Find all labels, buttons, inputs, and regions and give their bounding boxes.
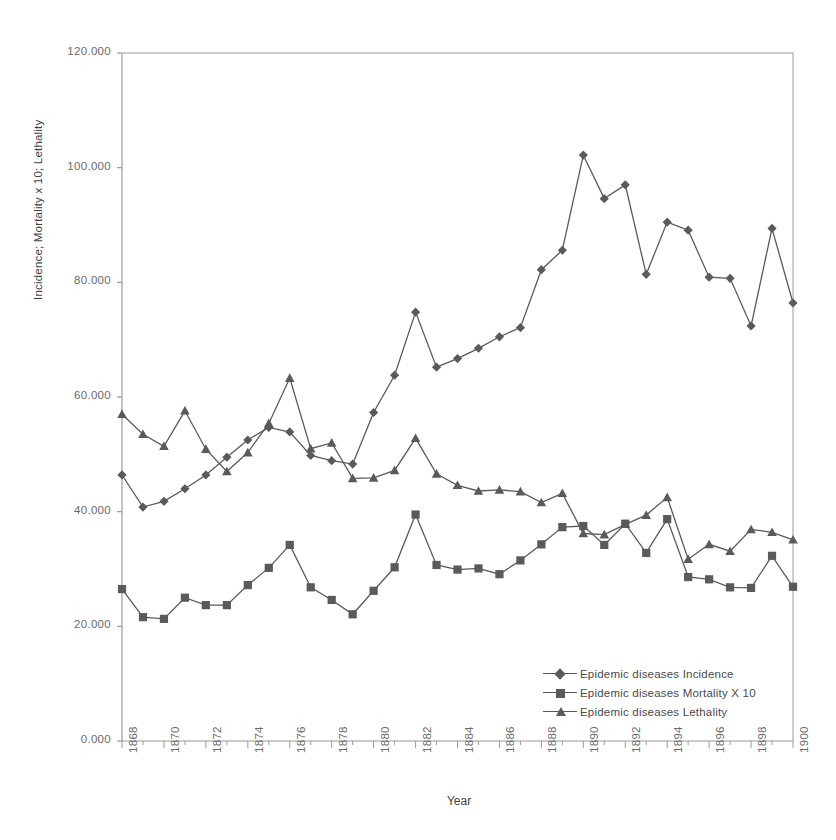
data-point-marker (432, 469, 442, 478)
data-point-marker (370, 587, 378, 595)
data-point-marker (600, 194, 609, 203)
data-point-marker (223, 601, 231, 609)
data-point-marker (432, 561, 440, 569)
y-axis-tick-label: 80.000 (41, 274, 111, 286)
data-point-marker (537, 540, 545, 548)
data-point-marker (285, 373, 295, 382)
x-axis-tick-label: 1892 (630, 726, 642, 753)
data-point-marker (453, 480, 463, 489)
data-point-marker (180, 406, 190, 415)
x-axis-tick-label: 1884 (463, 726, 475, 753)
data-point-marker (579, 150, 588, 159)
data-point-marker (558, 489, 568, 498)
data-point-marker (662, 493, 672, 502)
data-point-marker (705, 575, 713, 583)
x-axis-tick-label: 1888 (546, 726, 558, 753)
data-point-marker (642, 270, 651, 279)
data-point-marker (138, 502, 147, 511)
data-point-marker (663, 515, 671, 523)
data-point-marker (558, 523, 566, 531)
data-point-marker (139, 613, 147, 621)
chart-legend: Epidemic diseases Incidence Epidemic dis… (543, 664, 756, 721)
data-point-marker (307, 583, 315, 591)
legend-label: Epidemic diseases Lethality (580, 706, 727, 718)
data-point-marker (642, 549, 650, 557)
data-point-marker (244, 581, 252, 589)
data-point-marker (117, 470, 126, 479)
data-point-marker (390, 563, 398, 571)
data-point-marker (265, 564, 273, 572)
data-point-marker (160, 615, 168, 623)
x-axis-tick-label: 1874 (253, 726, 265, 753)
data-point-marker (495, 485, 505, 494)
data-point-marker (725, 274, 734, 283)
data-point-marker (411, 510, 419, 518)
data-point-marker (432, 363, 441, 372)
data-point-marker (348, 459, 357, 468)
data-point-marker (328, 596, 336, 604)
data-point-marker (159, 497, 168, 506)
data-point-marker (788, 298, 797, 307)
data-point-marker (181, 594, 189, 602)
data-point-marker (243, 448, 253, 457)
x-axis-tick-label: 1898 (756, 726, 768, 753)
data-point-marker (683, 554, 693, 563)
data-point-marker (390, 466, 400, 475)
triangle-marker-icon (543, 706, 577, 718)
data-point-marker (369, 408, 378, 417)
x-axis-title: Year (0, 794, 836, 808)
y-axis-tick-label: 100.000 (41, 160, 111, 172)
y-axis-tick-label: 40.000 (41, 504, 111, 516)
data-point-marker (327, 456, 336, 465)
chart-figure: Incidence; Mortality x 10; Lethality Yea… (0, 0, 836, 840)
x-axis-tick-label: 1882 (421, 726, 433, 753)
data-point-marker (684, 573, 692, 581)
x-axis-tick-label: 1894 (672, 726, 684, 753)
legend-item-incidence[interactable]: Epidemic diseases Incidence (543, 664, 756, 683)
y-axis-tick-label: 60.000 (41, 389, 111, 401)
data-point-marker (746, 525, 756, 534)
data-point-marker (789, 583, 797, 591)
data-point-marker (201, 444, 211, 453)
diamond-marker-icon (543, 668, 577, 680)
x-axis-tick-label: 1896 (714, 726, 726, 753)
y-axis-tick-label: 120.000 (41, 45, 111, 57)
legend-item-mortality[interactable]: Epidemic diseases Mortality X 10 (543, 683, 756, 702)
legend-label: Epidemic diseases Mortality X 10 (580, 687, 756, 699)
data-point-marker (327, 438, 337, 447)
data-point-marker (516, 323, 525, 332)
x-axis-tick-label: 1872 (211, 726, 223, 753)
data-point-marker (684, 226, 693, 235)
data-point-marker (286, 541, 294, 549)
data-point-marker (159, 442, 169, 451)
data-point-marker (180, 484, 189, 493)
data-point-marker (768, 552, 776, 560)
data-point-marker (495, 332, 504, 341)
x-axis-tick-label: 1890 (588, 726, 600, 753)
data-point-marker (621, 180, 630, 189)
y-axis-tick-label: 0.000 (41, 733, 111, 745)
x-axis-tick-label: 1886 (504, 726, 516, 753)
data-point-marker (118, 585, 126, 593)
data-point-marker (453, 565, 461, 573)
legend-item-lethality[interactable]: Epidemic diseases Lethality (543, 702, 756, 721)
x-axis-tick-label: 1878 (337, 726, 349, 753)
x-axis-tick-label: 1900 (798, 726, 810, 753)
data-point-marker (390, 371, 399, 380)
legend-label: Epidemic diseases Incidence (580, 668, 734, 680)
x-axis-tick-label: 1870 (169, 726, 181, 753)
data-point-marker (264, 419, 274, 428)
data-point-marker (747, 584, 755, 592)
data-point-marker (474, 564, 482, 572)
data-point-marker (726, 583, 734, 591)
data-point-marker (453, 354, 462, 363)
data-point-marker (767, 224, 776, 233)
data-point-marker (411, 433, 421, 442)
data-point-marker (202, 601, 210, 609)
data-point-marker (537, 498, 547, 507)
data-point-marker (495, 570, 503, 578)
x-axis-tick-label: 1880 (379, 726, 391, 753)
data-point-marker (663, 218, 672, 227)
data-point-marker (704, 540, 714, 549)
data-point-marker (746, 321, 755, 330)
